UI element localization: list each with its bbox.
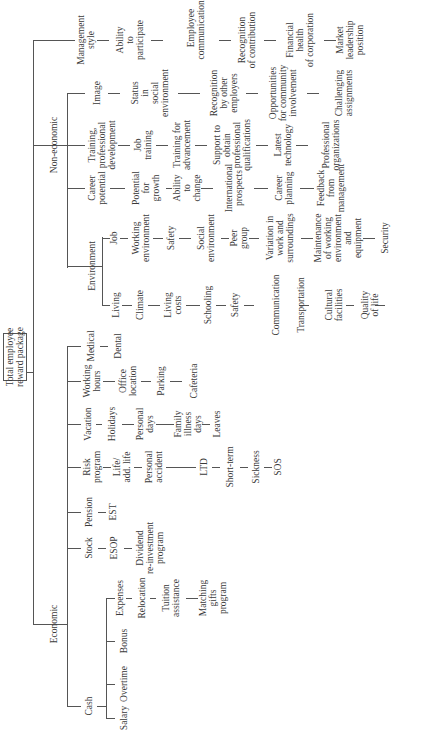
node-latest-technology: Latest technology	[273, 124, 293, 166]
overtime-connector	[106, 684, 115, 685]
chain-line	[256, 145, 268, 146]
cash-label: Cash	[84, 697, 94, 716]
chain-line	[156, 424, 174, 425]
node-recognition-of-contribution: Recognition of contribution	[237, 12, 257, 69]
node-ability-to-change: Ability to change	[172, 175, 202, 202]
node-office-location: Office location	[118, 366, 138, 397]
node-training-for-advancement: Training for advancement	[172, 120, 192, 170]
node-international-prospects: International prospects	[224, 164, 244, 213]
economic-spine	[67, 346, 68, 706]
chain-line	[151, 40, 163, 41]
node-living-costs: Living costs	[163, 292, 183, 317]
node-relocation: Relocation	[137, 577, 147, 618]
chain-line	[219, 40, 231, 41]
node-sos: SOS	[273, 458, 283, 475]
chain-line	[201, 188, 213, 189]
chain-line	[134, 467, 142, 468]
chain-line	[301, 238, 313, 239]
chain-line	[103, 381, 115, 382]
node-employee-communications: Employee communications	[186, 0, 206, 59]
node-opportunities-community: Opportunities for community involvement	[268, 65, 298, 122]
node-image: Image	[92, 81, 102, 105]
node-market-leadership: Market leadership position	[335, 20, 365, 59]
image-connector	[67, 93, 85, 94]
node-financial-health: Financial health of corporation	[285, 13, 315, 67]
non-economic-label: Non-economic	[49, 117, 59, 173]
pension-connector	[67, 512, 81, 513]
chain-line	[166, 467, 196, 468]
chain-line	[97, 40, 109, 41]
node-potential-for-growth: Potential for growth	[131, 171, 161, 205]
chain-line	[156, 145, 168, 146]
chain-line	[296, 145, 308, 146]
node-communication: Communication	[271, 274, 281, 335]
node-working-environment: Working environment	[131, 214, 151, 262]
node-overtime: Overtime	[119, 666, 129, 702]
node-ltd: LTD	[199, 458, 209, 476]
chain-line	[300, 188, 314, 189]
node-est: EST	[108, 504, 118, 521]
chain-line	[150, 598, 156, 599]
node-cultural-facilities: Cultural facilities	[324, 289, 344, 322]
economic-label: Economic	[49, 605, 59, 644]
node-management-style: Management style	[76, 15, 96, 65]
chain-line	[240, 467, 248, 468]
chain-line	[120, 238, 128, 239]
chain-line	[363, 238, 375, 239]
node-living: Living	[111, 292, 121, 317]
node-recognition-by-other-employers: Recognition by other employers	[209, 70, 239, 116]
vacation-connector	[67, 424, 81, 425]
chain-line	[221, 238, 229, 239]
node-climate: Climate	[135, 290, 145, 320]
chain-line	[103, 467, 111, 468]
node-salary: Salary	[119, 706, 129, 730]
chain-line	[264, 40, 276, 41]
node-job-safety: Safety	[166, 226, 176, 250]
career-connector	[67, 188, 85, 189]
node-bonus: Bonus	[119, 629, 129, 653]
chain-line	[153, 238, 163, 239]
cash-connector	[67, 706, 81, 707]
node-job-training: Job training	[133, 130, 153, 160]
chain-line	[307, 93, 319, 94]
chain-line	[122, 424, 134, 425]
trunk-line	[33, 40, 34, 624]
environment-label: Environment	[87, 241, 97, 291]
node-leaves: Leaves	[212, 411, 222, 438]
chain-line	[249, 238, 259, 239]
node-career-potential: Career potential	[87, 171, 107, 204]
environment-spine	[102, 237, 103, 305]
chain-line	[98, 548, 106, 549]
node-short-term: Short-term	[225, 446, 235, 487]
chain-line	[124, 548, 132, 549]
medical-connector	[67, 346, 81, 347]
chain-line	[244, 305, 254, 306]
chain-line	[254, 188, 268, 189]
chain-line	[100, 346, 108, 347]
node-social-environment: Social environment	[196, 214, 216, 262]
node-dental: Dental	[113, 333, 123, 358]
environment-connector	[67, 266, 103, 267]
chain-line	[216, 305, 226, 306]
node-training-professional-development: Training, professional development	[87, 120, 117, 169]
chain-line	[126, 598, 132, 599]
chain-line	[118, 145, 130, 146]
node-parking: Parking	[156, 366, 166, 396]
node-pension: Pension	[84, 497, 94, 527]
node-schooling: Schooling	[203, 286, 213, 325]
node-maintenance-working-environment: Maintenance of working environment and e…	[313, 213, 363, 262]
node-living-safety: Safety	[230, 293, 240, 317]
node-holidays: Holidays	[107, 407, 117, 441]
management-connector	[33, 40, 75, 41]
chain-line	[212, 467, 220, 468]
node-ability-to-participate: Ability to participate	[115, 20, 145, 60]
node-family-illness-days: Family illness days	[173, 411, 203, 438]
node-expenses: Expenses	[115, 580, 125, 616]
node-status-in-social-environment: Status in social environment	[130, 69, 170, 117]
node-cafeteria: Cafeteria	[189, 364, 199, 399]
chain-line	[346, 305, 354, 306]
working-hours-connector	[67, 381, 81, 382]
node-tuition-assistance: Tuition assistance	[161, 579, 181, 617]
expenses-connector	[106, 598, 115, 599]
node-matching-gifts: Matching gifts program	[198, 580, 228, 616]
